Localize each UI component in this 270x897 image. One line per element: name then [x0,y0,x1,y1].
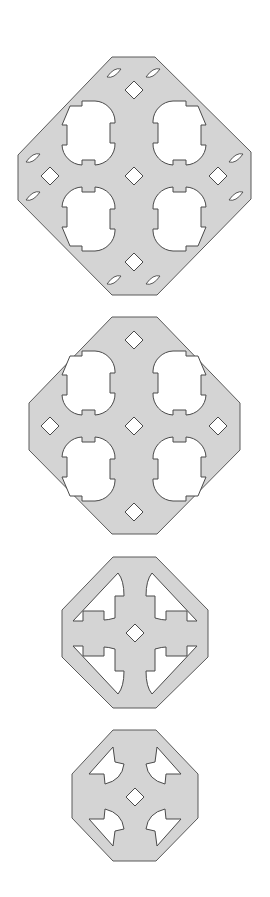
plate-2 [29,317,240,534]
plates-drawing [0,0,270,897]
plate-1 [18,57,251,295]
plate-4 [72,730,198,861]
plate-3 [62,557,208,708]
